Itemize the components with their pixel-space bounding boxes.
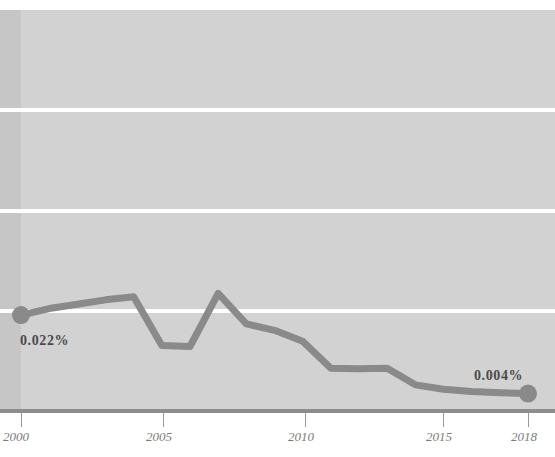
data-label-end-value: 0.004% [474,368,523,384]
x-axis-tick [21,413,22,427]
x-axis-label-2018: 2018 [511,429,537,445]
data-label-start-value: 0.022% [20,333,69,349]
data-point-marker-end [519,385,537,403]
x-axis-tick [528,413,529,427]
x-axis-label-2005: 2005 [146,429,172,445]
x-axis-label-2000: 2000 [3,429,29,445]
series-layer [0,0,555,457]
x-axis-tick [163,413,164,427]
data-point-marker-start [12,306,30,324]
x-axis-label-2010: 2010 [288,429,314,445]
x-axis-line [0,409,555,413]
series-line-share [21,293,528,393]
x-axis-label-2015: 2015 [426,429,452,445]
x-axis-tick [305,413,306,427]
chart-figure: 2000 2005 2010 2015 2018 0.022% 0.004% [0,0,555,457]
x-axis-tick [443,413,444,427]
